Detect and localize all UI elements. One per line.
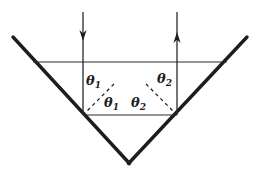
angle-labels: θ1 θ1 θ2 θ2: [86, 71, 172, 112]
incoming-ray: [79, 12, 86, 115]
angle-label-theta-2-lower: θ2: [131, 95, 146, 112]
theta-2-upper-symbol: θ: [157, 71, 166, 86]
outgoing-ray: [173, 12, 180, 115]
theta-2-lower-symbol: θ: [131, 95, 140, 110]
theta-1-upper-symbol: θ: [86, 73, 95, 88]
angle-label-theta-1-lower: θ1: [104, 95, 119, 112]
theta-1-upper-subscript: 1: [95, 80, 101, 90]
theta-2-upper-subscript: 2: [165, 78, 172, 88]
angle-label-theta-2-upper: θ2: [157, 71, 172, 88]
theta-2-lower-subscript: 2: [139, 102, 146, 112]
ray-diagram-canvas: θ1 θ1 θ2 θ2: [0, 0, 261, 175]
right-normal-dashed-icon: [146, 84, 176, 114]
angle-label-theta-1-upper: θ1: [86, 73, 101, 90]
theta-1-lower-symbol: θ: [104, 95, 113, 110]
v-shaped-mirror: [13, 37, 247, 164]
theta-1-lower-subscript: 1: [113, 102, 119, 112]
mirror-right-arm: [129, 37, 248, 164]
ray-diagram-figure: θ1 θ1 θ2 θ2: [0, 0, 261, 175]
